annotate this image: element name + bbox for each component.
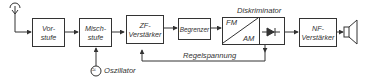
vorstufe-line2: stufe bbox=[41, 33, 57, 42]
loudspeaker-icon bbox=[344, 20, 357, 44]
zf-line2: Verstärker bbox=[129, 30, 162, 39]
regelspannung-label: Regelspannung bbox=[183, 51, 236, 60]
begrenzer-label: Begrenzer bbox=[180, 25, 210, 34]
vorstufe-line1: Vor- bbox=[41, 24, 57, 33]
nf-line2: Verstärker bbox=[302, 33, 335, 42]
oscillator-symbol: ≈ bbox=[92, 66, 96, 73]
mischstufe-line1: Misch- bbox=[85, 24, 106, 33]
fm-label: FM bbox=[226, 18, 237, 27]
am-label: AM bbox=[243, 34, 254, 43]
oscillator-label: Oszillator bbox=[104, 66, 136, 75]
block-zf-verstaerker: ZF-Verstärker bbox=[126, 15, 164, 44]
diskriminator-divider bbox=[259, 17, 260, 45]
diskriminator-caption: Diskriminator bbox=[237, 6, 281, 15]
block-nf-verstaerker: NF-Verstärker bbox=[299, 18, 337, 47]
nf-line1: NF- bbox=[302, 24, 335, 33]
block-mischstufe: Misch-stufe bbox=[79, 18, 112, 47]
antenna-icon bbox=[10, 3, 20, 14]
zf-line1: ZF- bbox=[129, 21, 162, 30]
block-vorstufe: Vor-stufe bbox=[32, 18, 65, 47]
block-begrenzer: Begrenzer bbox=[178, 18, 211, 40]
mischstufe-line2: stufe bbox=[85, 33, 106, 42]
